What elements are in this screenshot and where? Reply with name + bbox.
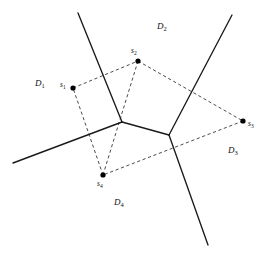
region-label-d2-text: D [157, 21, 164, 31]
voronoi-edge-group [13, 13, 232, 245]
region-label-d3-text: D [228, 145, 235, 155]
region-label-d4-text: D [114, 197, 121, 207]
voronoi-edge-v1-v2 [122, 122, 169, 135]
site-dot-s4 [100, 172, 105, 177]
site-label-s4: s4 [97, 180, 103, 188]
voronoi-ray-upper-right [169, 15, 232, 135]
region-label-d2: D2 [157, 22, 167, 31]
region-label-d1-sub: 1 [42, 82, 45, 89]
voronoi-ray-lower-left [13, 122, 122, 163]
site-label-s4-sub: 4 [100, 183, 103, 189]
site-label-s2-sub: 2 [134, 50, 137, 56]
delaunay-edge-s2-s3 [138, 61, 243, 121]
site-label-s1-sub: 1 [63, 84, 66, 90]
delaunay-edge-s1-s2 [73, 61, 138, 88]
site-label-s3: s3 [248, 120, 254, 128]
voronoi-ray-upper-left [78, 13, 122, 122]
region-label-d3: D3 [228, 146, 238, 155]
delaunay-edge-group [73, 61, 243, 175]
region-label-d2-sub: 2 [164, 25, 167, 32]
site-label-s1: s1 [60, 81, 66, 89]
site-label-s3-sub: 3 [251, 123, 254, 129]
site-dot-s2 [135, 58, 140, 63]
region-label-d3-sub: 3 [235, 149, 238, 156]
region-label-d4: D4 [114, 198, 124, 207]
voronoi-ray-lower-right [169, 135, 208, 245]
region-label-d1: D1 [35, 79, 45, 88]
voronoi-figure: s1 s2 s3 s4 D1 D2 D3 D4 [0, 0, 265, 263]
region-label-d1-text: D [35, 78, 42, 88]
site-dot-group [70, 58, 245, 177]
site-dot-s3 [240, 118, 245, 123]
site-label-s2: s2 [131, 47, 137, 55]
site-dot-s1 [70, 85, 75, 90]
region-label-d4-sub: 4 [121, 201, 124, 208]
figure-canvas [0, 0, 265, 263]
